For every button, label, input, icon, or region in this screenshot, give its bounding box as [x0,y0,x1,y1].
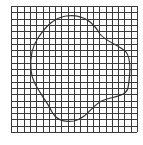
grid-diagram [0,0,143,145]
grid-figure [0,0,143,145]
grid-lines [11,6,138,133]
